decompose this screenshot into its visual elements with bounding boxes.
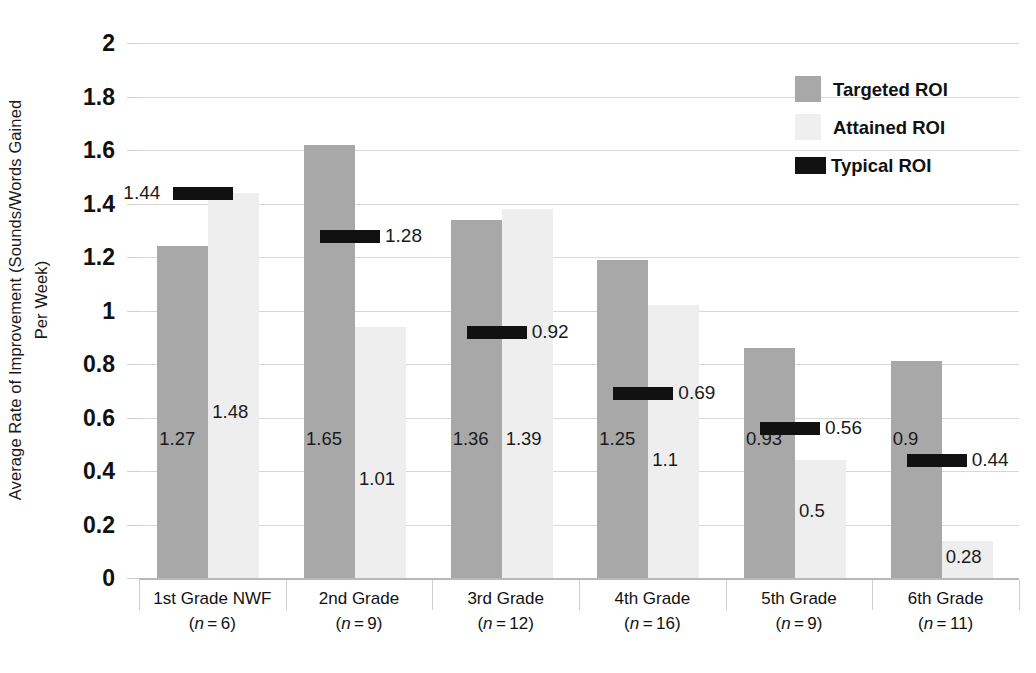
bar-attained-roi [355,327,406,578]
bar-targeted-roi [744,348,795,578]
gridline [139,525,1019,526]
value-label-targeted: 1.25 [599,430,635,449]
x-axis-label-grade: 3rd Grade [467,589,544,608]
value-label-targeted: 0.9 [893,430,919,449]
value-label-typical: 0.44 [972,450,1009,469]
y-axis-tick-mark [127,97,139,98]
y-axis-tick-label: 2 [11,32,115,55]
y-axis-tick-mark [127,43,139,44]
value-label-attained: 1.39 [506,430,542,449]
x-axis-category-label: 3rd Grade(n = 12) [432,586,579,636]
bar-attained-roi [208,193,259,578]
bar-targeted-roi [891,361,942,578]
value-label-attained: 0.5 [799,502,825,521]
y-axis-tick-mark [127,257,139,258]
y-axis-tick-label: 0 [11,567,115,590]
gridline [139,418,1019,419]
bar-attained-roi [502,209,553,578]
legend-swatch-typical-icon [795,157,826,174]
y-axis-tick-label: 1 [11,300,115,323]
x-axis-category-label: 2nd Grade(n = 9) [286,586,433,636]
y-axis-tick-label: 0.8 [11,353,115,376]
bar-targeted-roi [451,220,502,578]
chart-legend: Targeted ROI Attained ROI Typical ROI [795,70,1030,184]
legend-item-targeted: Targeted ROI [795,70,1030,108]
x-axis-label-n: (n = 9) [726,611,873,636]
legend-swatch-targeted-icon [795,76,821,102]
x-axis-label-n: (n = 9) [286,611,433,636]
value-label-targeted: 1.36 [453,430,489,449]
marker-typical-roi [760,422,820,435]
gridline [139,364,1019,365]
legend-swatch-attained-icon [795,114,821,140]
y-axis-tick-mark [127,471,139,472]
x-axis-label-n: (n = 16) [579,611,726,636]
marker-typical-roi [907,454,967,467]
value-label-typical: 0.69 [678,383,715,402]
bar-targeted-roi [157,246,208,578]
y-axis-tick-label: 0.4 [11,460,115,483]
y-axis-tick-label: 0.2 [11,514,115,537]
y-axis-tick-mark [127,418,139,419]
marker-typical-roi [613,387,673,400]
gridline [139,471,1019,472]
value-label-typical: 1.28 [385,226,422,245]
x-axis-label-grade: 6th Grade [908,589,984,608]
value-label-targeted: 1.27 [159,430,195,449]
legend-label-targeted: Targeted ROI [833,79,948,101]
value-label-targeted: 1.65 [306,430,342,449]
legend-label-attained: Attained ROI [833,117,945,139]
x-axis-label-n: (n = 6) [139,611,286,636]
x-axis-label-grade: 1st Grade NWF [153,589,271,608]
gridline [139,204,1019,205]
x-axis-category-label: 1st Grade NWF(n = 6) [139,586,286,636]
legend-label-typical: Typical ROI [831,155,931,177]
y-axis-tick-mark [127,150,139,151]
bar-targeted-roi [304,145,355,578]
y-axis-tick-mark [127,525,139,526]
legend-item-typical: Typical ROI [795,146,1030,184]
value-label-attained: 1.01 [359,470,395,489]
y-axis-tick-label: 1.2 [11,246,115,269]
y-axis-tick-label: 1.8 [11,86,115,109]
bar-targeted-roi [597,260,648,578]
value-label-typical: 1.44 [123,183,160,202]
marker-typical-roi [173,187,233,200]
value-label-attained: 0.28 [946,548,982,567]
gridline [139,43,1019,44]
y-axis-tick-label: 1.4 [11,193,115,216]
x-axis-category-label: 4th Grade(n = 16) [579,586,726,636]
y-axis-tick-mark [127,311,139,312]
value-label-typical: 0.56 [825,418,862,437]
gridline [139,311,1019,312]
value-label-attained: 1.1 [652,451,678,470]
category-separator [1019,580,1020,610]
value-label-attained: 1.48 [212,403,248,422]
category-separator [139,580,140,610]
gridline [139,257,1019,258]
marker-typical-roi [467,326,527,339]
value-label-typical: 0.92 [532,322,569,341]
x-axis-label-n: (n = 12) [432,611,579,636]
bar-chart-figure: Average Rate of Improvement (Sounds/Word… [0,0,1036,673]
x-axis-label-n: (n = 11) [872,611,1019,636]
x-axis-label-grade: 4th Grade [615,589,691,608]
y-axis-tick-mark [127,204,139,205]
bar-attained-roi [648,305,699,578]
y-axis-tick-mark [127,578,139,579]
y-axis-tick-label: 1.6 [11,139,115,162]
legend-item-attained: Attained ROI [795,108,1030,146]
x-axis-label-grade: 5th Grade [761,589,837,608]
x-axis-label-grade: 2nd Grade [319,589,399,608]
y-axis-tick-mark [127,364,139,365]
x-axis-category-label: 6th Grade(n = 11) [872,586,1019,636]
marker-typical-roi [320,230,380,243]
x-axis-category-label: 5th Grade(n = 9) [726,586,873,636]
y-axis-tick-label: 0.6 [11,407,115,430]
